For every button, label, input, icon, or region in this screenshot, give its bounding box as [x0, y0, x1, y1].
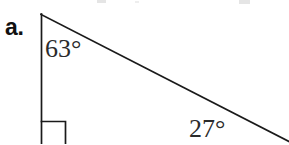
problem-item-label: a. [5, 16, 24, 39]
right-angle-marker-icon [42, 122, 66, 145]
right-triangle-figure [0, 0, 289, 144]
angle-label-top: 63° [45, 36, 81, 62]
angle-label-bottom: 27° [189, 116, 225, 142]
figure-page: a. 63° 27° [0, 0, 289, 144]
